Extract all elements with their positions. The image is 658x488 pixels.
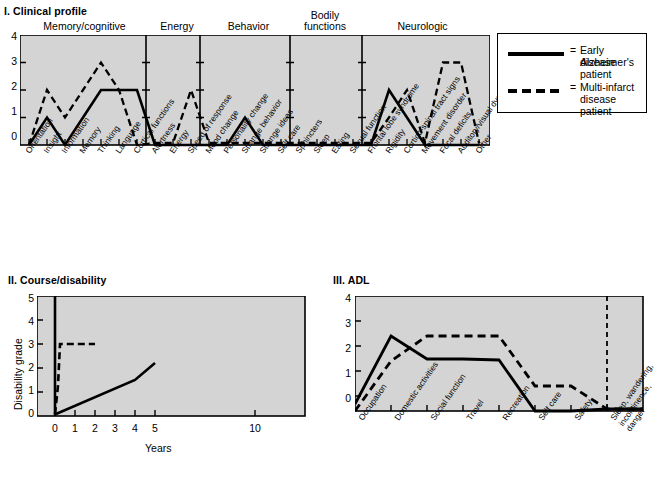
p2-xtick-5: 5 bbox=[148, 422, 162, 434]
p2-xtick-10: 10 bbox=[248, 422, 262, 434]
section-header-neurologic: Neurologic bbox=[360, 21, 485, 32]
section-header-bodily-line1: Bodily bbox=[290, 10, 360, 21]
panel1-title: I. Clinical profile bbox=[4, 5, 87, 17]
p1-ytick-3: 3 bbox=[5, 55, 17, 67]
panel2-title: II. Course/disability bbox=[8, 274, 106, 286]
p2-ytick-5: 5 bbox=[22, 292, 34, 304]
p1-ytick-2: 2 bbox=[5, 80, 17, 92]
p2-xtick-0: 0 bbox=[48, 422, 62, 434]
p3-ytick-2: 2 bbox=[339, 342, 351, 354]
p2-xtick-3: 3 bbox=[108, 422, 122, 434]
p2-ytick-1: 1 bbox=[22, 384, 34, 396]
section-header-bodily-line2: functions bbox=[290, 21, 360, 32]
p2-ytick-3: 3 bbox=[22, 338, 34, 350]
panel2-xlabel: Years bbox=[145, 442, 171, 454]
p1-ytick-0: 0 bbox=[5, 130, 17, 142]
legend-solid-swatch bbox=[508, 51, 564, 57]
panel-course-disability: II. Course/disability Disability grade 5… bbox=[0, 270, 320, 488]
p2-ytick-2: 2 bbox=[22, 361, 34, 373]
p1-ytick-4: 4 bbox=[5, 30, 17, 42]
panel2-plot bbox=[37, 296, 307, 421]
p2-xtick-1: 1 bbox=[68, 422, 82, 434]
p3-ytick-4: 4 bbox=[339, 292, 351, 304]
p2-xtick-2: 2 bbox=[88, 422, 102, 434]
panel3-title: III. ADL bbox=[333, 274, 370, 286]
p2-xtick-4: 4 bbox=[128, 422, 142, 434]
legend-dashed-swatch bbox=[508, 88, 564, 94]
legend-item-1-equals: = bbox=[570, 82, 576, 94]
p3-ytick-3: 3 bbox=[339, 317, 351, 329]
legend-item-1-line2: disease patient bbox=[580, 94, 646, 117]
panel3-plot bbox=[355, 296, 645, 416]
p3-ytick-1: 1 bbox=[339, 367, 351, 379]
legend-item-1-line1: Multi-infarct bbox=[580, 82, 634, 94]
panel-adl: III. ADL 4 3 2 1 0 Occupation Domestic a… bbox=[325, 270, 650, 488]
p2-ytick-0: 0 bbox=[22, 407, 34, 419]
section-header-energy: Energy bbox=[147, 21, 207, 32]
p2-ytick-4: 4 bbox=[22, 315, 34, 327]
legend-item-0-line2: disease patient bbox=[580, 57, 646, 80]
p3-ytick-0: 0 bbox=[339, 392, 351, 404]
legend-item-0-equals: = bbox=[570, 45, 576, 57]
section-header-memory: Memory/cognitive bbox=[22, 21, 147, 32]
p1-ytick-1: 1 bbox=[5, 105, 17, 117]
legend-box: = Early Alzheimer's disease patient = Mu… bbox=[497, 33, 647, 113]
panel-clinical-profile: I. Clinical profile Memory/cognitive Ene… bbox=[0, 0, 500, 250]
section-header-behavior: Behavior bbox=[207, 21, 290, 32]
